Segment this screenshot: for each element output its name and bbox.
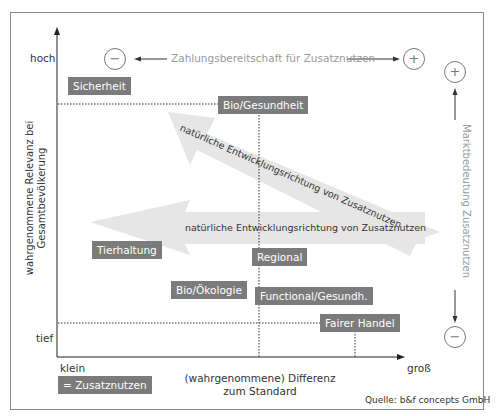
minus-circle-icon: − (444, 326, 466, 348)
x-axis-title-line2: zum Standard (180, 385, 340, 398)
x-axis-title-line1: (wahrgenommene) Differenz (180, 372, 340, 385)
right-scale-label: Marktbedeutung Zusatznutzen (461, 124, 472, 278)
source-note: Quelle: b&f concepts GmbH (365, 395, 490, 405)
y-axis-title: wahrgenommene Relevanz bei Gesamtbevölke… (24, 118, 48, 278)
top-scale-label: Zahlungsbereitschaft für Zusatznutzen (171, 52, 375, 64)
item-fairer-handel: Fairer Handel (320, 314, 400, 332)
item-regional: Regional (252, 248, 307, 266)
item-bio-gesundheit: Bio/Gesundheit (218, 96, 308, 114)
y-axis-title-line1: wahrgenommene Relevanz bei (24, 118, 36, 278)
horizontal-arrow-label: natürliche Entwicklungsrichtung von Zusa… (185, 222, 426, 233)
item-sicherheit: Sicherheit (68, 77, 131, 95)
x-axis-low-label: klein (60, 362, 85, 374)
item-functional-gesundh: Functional/Gesundh. (255, 287, 373, 305)
x-axis-high-label: groß (407, 362, 431, 374)
item-tierhaltung: Tierhaltung (92, 241, 162, 259)
legend-zusatznutzen: = Zusatznutzen (58, 376, 152, 394)
minus-circle-icon: − (104, 48, 126, 70)
y-axis-high-label: hoch (30, 52, 56, 64)
plus-circle-icon: + (403, 48, 425, 70)
x-axis-title: (wahrgenommene) Differenz zum Standard (180, 372, 340, 398)
item-bio-oekologie: Bio/Ökologie (171, 281, 247, 299)
y-axis-low-label: tief (36, 332, 53, 344)
y-axis-title-line2: Gesamtbevölkerung (36, 118, 48, 278)
plus-circle-icon: + (444, 61, 466, 83)
